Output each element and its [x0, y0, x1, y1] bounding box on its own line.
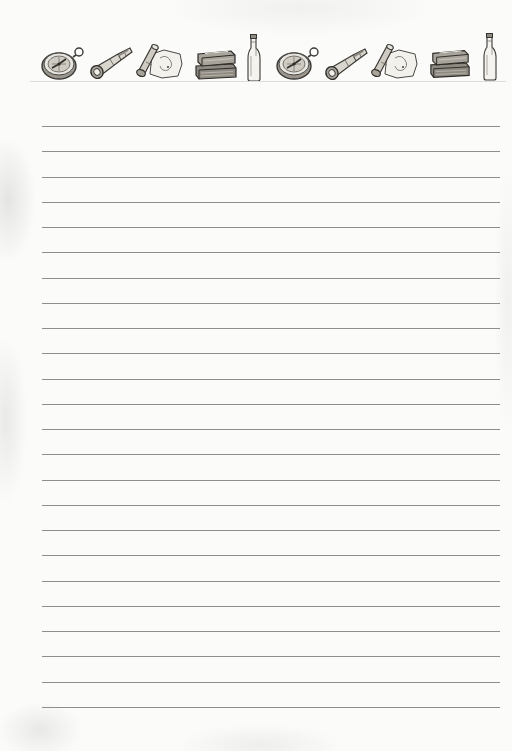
ruled-line — [42, 606, 500, 607]
ruled-line — [42, 177, 500, 178]
ruled-line — [42, 328, 500, 329]
ruled-lines — [0, 0, 512, 751]
ruled-line — [42, 429, 500, 430]
ruled-line — [42, 151, 500, 152]
ruled-line — [42, 278, 500, 279]
ruled-line — [42, 682, 500, 683]
ruled-line — [42, 252, 500, 253]
ruled-line — [42, 227, 500, 228]
ruled-line — [42, 454, 500, 455]
ruled-line — [42, 555, 500, 556]
ruled-line — [42, 581, 500, 582]
ruled-line — [42, 379, 500, 380]
ruled-line — [42, 530, 500, 531]
ruled-line — [42, 505, 500, 506]
ruled-line — [42, 202, 500, 203]
ruled-line — [42, 353, 500, 354]
ruled-line — [42, 631, 500, 632]
ruled-line — [42, 126, 500, 127]
ruled-line — [42, 404, 500, 405]
ruled-line — [42, 656, 500, 657]
ruled-line — [42, 707, 500, 708]
ruled-line — [42, 480, 500, 481]
ruled-line — [42, 303, 500, 304]
